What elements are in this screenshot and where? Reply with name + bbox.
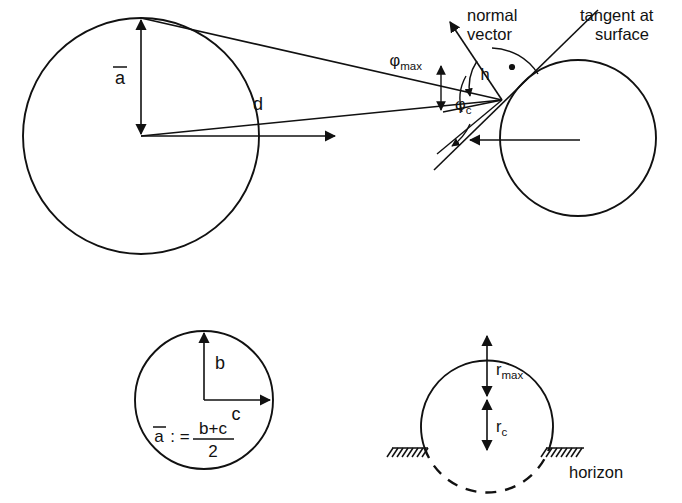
technical-diagram: a d φmax h φc normal vector tangent at s… [0, 0, 682, 503]
formula-denominator: 2 [208, 442, 217, 461]
mean-radius-label: a [115, 68, 126, 88]
right-angle-arc [492, 48, 538, 74]
normal-vector-label-line2: vector [467, 25, 512, 43]
phi-max-label: φmax [390, 51, 423, 72]
tangent-label-line1: tangent at [580, 6, 654, 24]
r-max-label: rmax [496, 360, 523, 381]
horizon-label: horizon [569, 463, 623, 481]
bottom-left-diagram-group: b c a : = b+c 2 [135, 331, 273, 469]
right-angle-dot-icon [509, 64, 515, 70]
normal-vector-label-line1: normal [467, 6, 517, 24]
h-label: h [480, 65, 489, 83]
horizon-hatch-left-icon [387, 448, 428, 457]
radius-c-label: c [232, 404, 241, 424]
formula-colon-equals: : = [170, 427, 189, 446]
phi-c-label: φc [455, 95, 472, 116]
tangent-label-line2: surface [595, 25, 649, 43]
formula-numerator: b+c [199, 419, 227, 438]
mean-radius-formula: a : = b+c 2 [153, 419, 234, 461]
radius-b-label: b [215, 353, 225, 373]
figure-root: a d φmax h φc normal vector tangent at s… [0, 0, 682, 503]
horizon-circle-lower-arc [425, 448, 550, 493]
distance-line-d [141, 100, 502, 136]
horizon-hatch-right-icon [541, 448, 584, 457]
bottom-right-diagram-group: rmax rc [387, 336, 623, 493]
r-c-label: rc [496, 417, 508, 438]
distance-label: d [253, 94, 263, 114]
top-diagram-group: a d φmax h φc normal vector tangent at s… [23, 6, 656, 254]
phi-max-lower-ray [443, 100, 502, 112]
upper-sight-line [141, 18, 502, 100]
h-angle-arc [469, 61, 477, 96]
formula-a-symbol: a [154, 427, 164, 446]
